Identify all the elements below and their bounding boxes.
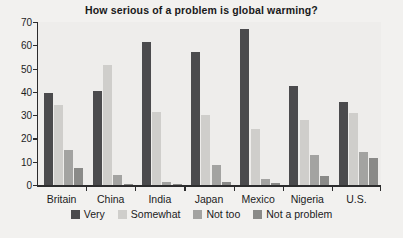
y-axis-tick — [33, 45, 37, 46]
bar-group — [339, 22, 379, 185]
x-axis-separator — [135, 185, 136, 191]
x-axis-label-india: India — [135, 193, 184, 205]
chart-legend: VerySomewhatNot tooNot a problem — [0, 208, 403, 220]
bar-not-too[interactable] — [113, 175, 122, 185]
legend-item-very[interactable]: Very — [71, 208, 105, 220]
y-axis-tick — [33, 185, 37, 186]
plot-area: 010203040506070 BritainChinaIndiaJapanMe… — [37, 22, 381, 185]
bar-not-too[interactable] — [64, 150, 73, 185]
bar-very[interactable] — [44, 93, 53, 185]
bar-group — [191, 22, 231, 185]
y-axis-tick-label: 10 — [21, 156, 32, 167]
bar-somewhat[interactable] — [251, 129, 260, 185]
y-axis-tick-label: 70 — [21, 17, 32, 28]
legend-label: Somewhat — [131, 208, 181, 220]
bar-somewhat[interactable] — [349, 113, 358, 185]
bar-somewhat[interactable] — [152, 112, 161, 185]
chart-figure: How serious of a problem is global warmi… — [0, 0, 403, 238]
legend-item-somewhat[interactable]: Somewhat — [118, 208, 181, 220]
bar-very[interactable] — [191, 52, 200, 185]
bar-not-too[interactable] — [261, 179, 270, 185]
y-axis-tick — [33, 69, 37, 70]
y-axis-tick — [33, 162, 37, 163]
legend-swatch-icon — [71, 210, 80, 219]
legend-item-not-too[interactable]: Not too — [193, 208, 240, 220]
legend-swatch-icon — [253, 210, 262, 219]
y-axis-tick — [33, 138, 37, 139]
legend-item-not-a-problem[interactable]: Not a problem — [253, 208, 332, 220]
x-axis-separator — [234, 185, 235, 191]
bar-somewhat[interactable] — [54, 105, 63, 185]
bar-somewhat[interactable] — [103, 65, 112, 185]
x-axis-separator — [86, 185, 87, 191]
y-axis-tick-label: 50 — [21, 63, 32, 74]
x-axis-label-britain: Britain — [37, 193, 86, 205]
bar-not-a-problem[interactable] — [124, 184, 133, 185]
bar-not-a-problem[interactable] — [74, 168, 83, 185]
y-axis-tick — [33, 22, 37, 23]
bar-group — [44, 22, 84, 185]
bar-somewhat[interactable] — [201, 115, 210, 185]
legend-swatch-icon — [193, 210, 202, 219]
legend-label: Very — [84, 208, 105, 220]
legend-swatch-icon — [118, 210, 127, 219]
bar-group — [142, 22, 182, 185]
y-axis-tick-label: 40 — [21, 86, 32, 97]
y-axis-tick — [33, 92, 37, 93]
y-axis-tick — [33, 115, 37, 116]
x-axis-line — [37, 185, 381, 187]
bar-somewhat[interactable] — [300, 120, 309, 185]
bar-group — [93, 22, 133, 185]
x-axis-separator — [332, 185, 333, 191]
bar-not-a-problem[interactable] — [320, 176, 329, 185]
bar-group — [240, 22, 280, 185]
bar-not-too[interactable] — [359, 152, 368, 185]
bar-not-too[interactable] — [310, 155, 319, 185]
y-axis-tick-label: 20 — [21, 133, 32, 144]
x-axis-label-japan: Japan — [184, 193, 233, 205]
bar-not-a-problem[interactable] — [173, 184, 182, 185]
x-axis-label-nigeria: Nigeria — [283, 193, 332, 205]
chart-title: How serious of a problem is global warmi… — [0, 4, 403, 16]
bar-very[interactable] — [339, 102, 348, 185]
x-axis-separator — [184, 185, 185, 191]
legend-label: Not a problem — [266, 208, 332, 220]
x-axis-label-mexico: Mexico — [234, 193, 283, 205]
bar-not-too[interactable] — [162, 182, 171, 185]
bar-very[interactable] — [240, 29, 249, 185]
bar-very[interactable] — [142, 42, 151, 185]
bar-not-a-problem[interactable] — [222, 182, 231, 185]
legend-label: Not too — [206, 208, 240, 220]
y-axis-line — [37, 22, 38, 185]
bar-not-a-problem[interactable] — [369, 158, 378, 185]
bar-not-too[interactable] — [212, 165, 221, 185]
x-axis-label-china: China — [86, 193, 135, 205]
bar-not-a-problem[interactable] — [271, 183, 280, 185]
y-axis-tick-label: 0 — [26, 180, 32, 191]
bar-very[interactable] — [93, 91, 102, 185]
x-axis-separator — [283, 185, 284, 191]
bar-very[interactable] — [289, 86, 298, 185]
x-axis-label-us: U.S. — [332, 193, 381, 205]
bar-group — [289, 22, 329, 185]
y-axis-tick-label: 60 — [21, 40, 32, 51]
y-axis-tick-label: 30 — [21, 110, 32, 121]
x-axis-separator — [380, 185, 381, 191]
